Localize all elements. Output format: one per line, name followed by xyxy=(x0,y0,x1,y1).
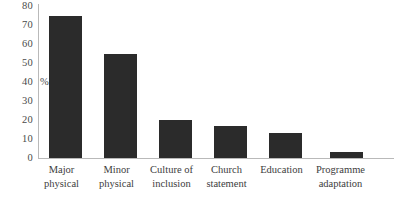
x-label-line1: Culture of xyxy=(150,164,193,175)
y-tick-40: 40 xyxy=(22,77,33,88)
y-tick-60: 60 xyxy=(22,39,33,50)
x-label-line1: Education xyxy=(260,164,303,175)
bar-series xyxy=(38,6,394,158)
y-tick-80: 80 xyxy=(22,1,33,12)
bar-slot-minor-physical xyxy=(93,6,148,158)
bar-education xyxy=(269,133,302,158)
y-tick-10: 10 xyxy=(22,134,33,145)
bar-slot-programme-adaptation xyxy=(319,6,374,158)
bar-culture-of-inclusion xyxy=(159,120,192,158)
x-axis-labels: Major physical Minor physical Culture of… xyxy=(38,163,394,197)
x-label-line2: statement xyxy=(195,177,259,191)
bar-chart: 80 70 60 50 40 30 20 10 0 % Maj xyxy=(0,0,394,197)
bar-slot-education xyxy=(258,6,313,158)
y-tick-30: 30 xyxy=(22,96,33,107)
bar-minor-physical xyxy=(104,54,137,159)
bar-slot-culture-of-inclusion xyxy=(148,6,203,158)
bar-slot-church-statement xyxy=(203,6,258,158)
x-label-line2: adaptation xyxy=(309,177,373,191)
y-tick-0: 0 xyxy=(28,153,33,164)
bar-church-statement xyxy=(214,126,247,158)
x-label-line1: Minor xyxy=(103,164,129,175)
bar-major-physical xyxy=(49,16,82,159)
x-label-line1: Major xyxy=(49,164,75,175)
x-axis-line xyxy=(38,158,394,159)
x-label-programme-adaptation: Programme adaptation xyxy=(309,163,373,190)
bar-slot-major-physical xyxy=(38,6,93,158)
x-label-line1: Church xyxy=(211,164,242,175)
y-tick-50: 50 xyxy=(22,58,33,69)
x-label-line1: Programme xyxy=(316,164,365,175)
bar-programme-adaptation xyxy=(330,152,363,158)
y-tick-70: 70 xyxy=(22,20,33,31)
y-tick-20: 20 xyxy=(22,115,33,126)
x-label-education: Education xyxy=(250,163,314,177)
